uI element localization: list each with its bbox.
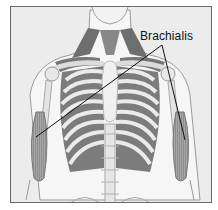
sternum xyxy=(102,61,118,122)
neck-muscles xyxy=(72,28,148,58)
brachialis-label: Brachialis xyxy=(140,29,193,43)
left-brachialis xyxy=(31,112,47,181)
